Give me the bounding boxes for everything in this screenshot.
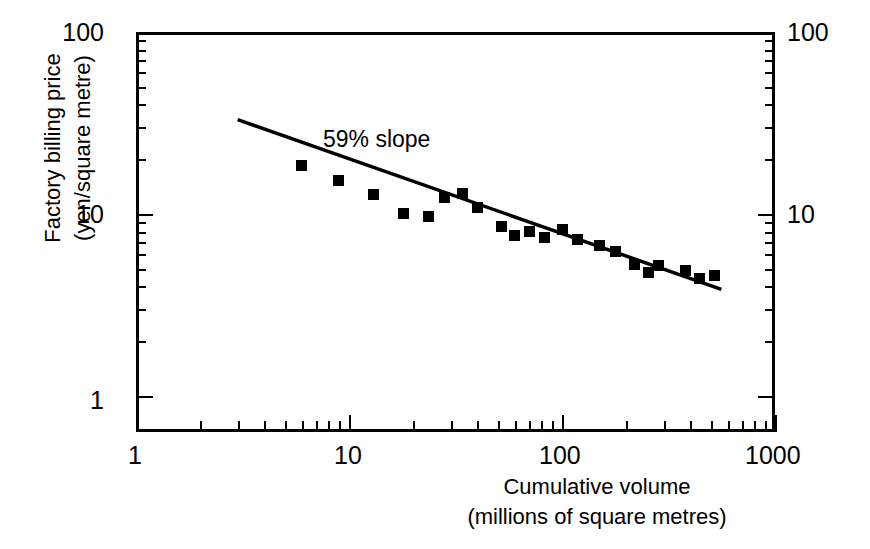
y-minor-tick-right [765,50,775,52]
y-minor-tick [136,242,146,244]
y-minor-tick-right [765,232,775,234]
y-minor-tick [136,222,146,224]
x-minor-tick [200,421,202,432]
x-major-tick [349,415,351,432]
y-minor-tick [136,341,146,343]
y-axis-label-1-left: 1 [90,388,104,413]
data-point-marker [368,189,379,200]
data-point-marker [439,192,450,203]
x-minor-tick [302,421,304,432]
y-minor-tick-right [765,87,775,89]
y-minor-tick [136,254,146,256]
x-axis-label-1: 1 [128,443,142,468]
data-point-marker [398,208,409,219]
x-minor-tick [339,421,341,432]
x-minor-tick [451,421,453,432]
y-minor-tick [136,104,146,106]
data-point-marker [557,224,568,235]
data-point-marker [472,202,483,213]
y-minor-tick-right [765,104,775,106]
y-minor-tick [136,232,146,234]
y-major-tick [136,214,153,216]
x-minor-tick [285,421,287,432]
y-minor-tick-right [765,309,775,311]
x-minor-tick [498,421,500,432]
y-minor-tick-right [765,72,775,74]
y-minor-tick-right [765,242,775,244]
x-axis-label-100: 100 [539,443,581,468]
x-minor-tick [316,421,318,432]
x-major-tick [136,415,138,432]
data-point-marker [572,234,583,245]
data-point-marker [496,221,507,232]
data-point-marker [610,246,621,257]
y-minor-tick [136,40,146,42]
y-minor-tick [136,159,146,161]
trend-line [136,32,775,432]
y-minor-tick [136,72,146,74]
x-minor-tick [765,421,767,432]
x-major-tick [562,415,564,432]
x-minor-tick [626,421,628,432]
x-minor-tick [552,421,554,432]
y-minor-tick-right [765,286,775,288]
x-minor-tick [754,421,756,432]
y-minor-tick [136,286,146,288]
y-minor-tick-right [765,159,775,161]
chart-figure: 100 10 1 100 10 1 10 100 1000 Factory bi… [0,0,870,549]
data-point-marker [524,226,535,237]
y-minor-tick-right [765,254,775,256]
data-point-marker [694,273,705,284]
data-point-marker [423,211,434,222]
x-minor-tick [413,421,415,432]
x-minor-tick [328,421,330,432]
y-axis-label-10-right: 10 [787,202,815,227]
y-major-tick [136,32,153,34]
plot-area [136,32,775,432]
y-minor-tick-right [765,60,775,62]
slope-annotation: 59% slope [323,128,430,151]
x-axis-label-1000: 1000 [745,443,801,468]
x-axis-title-line2: (millions of square metres) [432,502,762,532]
x-minor-tick [238,421,240,432]
y-axis-title-line1: Factory billing price [38,0,68,298]
y-minor-tick-right [765,127,775,129]
data-point-marker [539,232,550,243]
y-axis-title: Factory billing price (yen/square metre) [38,0,98,298]
y-minor-tick-right [765,40,775,42]
x-minor-tick [728,421,730,432]
y-minor-tick-right [765,341,775,343]
data-point-marker [333,175,344,186]
y-minor-tick [136,309,146,311]
data-point-marker [594,240,605,251]
x-minor-tick [664,421,666,432]
x-minor-tick [541,421,543,432]
y-major-tick-right [758,214,775,216]
x-axis-title-line1: Cumulative volume [432,472,762,502]
x-minor-tick [515,421,517,432]
data-point-marker [709,270,720,281]
x-minor-tick [742,421,744,432]
y-minor-tick [136,60,146,62]
y-minor-tick [136,269,146,271]
x-axis-label-10: 10 [334,443,362,468]
data-point-marker [653,260,664,271]
x-minor-tick [711,421,713,432]
y-minor-tick [136,127,146,129]
data-point-marker [296,160,307,171]
x-minor-tick [690,421,692,432]
y-major-tick [136,396,153,398]
x-minor-tick [529,421,531,432]
y-major-tick-right [758,32,775,34]
y-minor-tick [136,50,146,52]
data-point-marker [457,188,468,199]
x-minor-tick [477,421,479,432]
x-minor-tick [264,421,266,432]
y-major-tick-right [758,396,775,398]
y-minor-tick-right [765,222,775,224]
x-axis-title: Cumulative volume (millions of square me… [432,472,762,532]
y-minor-tick [136,87,146,89]
data-point-marker [629,259,640,270]
data-point-marker [680,265,691,276]
data-point-marker [509,230,520,241]
